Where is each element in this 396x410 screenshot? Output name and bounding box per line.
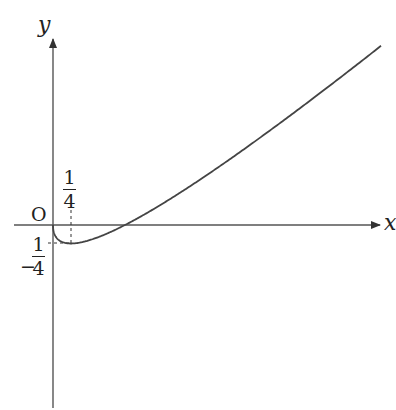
y-axis-label: y — [38, 12, 50, 37]
y-tick-denominator: 4 — [32, 258, 44, 279]
x-axis-label: x — [384, 210, 396, 235]
origin-label: O — [31, 203, 47, 225]
y-tick-neg-quarter: 1 4 — [32, 234, 45, 279]
y-tick-numerator: 1 — [32, 234, 44, 255]
function-curve — [53, 46, 381, 244]
x-tick-quarter: 1 4 — [63, 167, 76, 212]
x-tick-denominator: 4 — [63, 191, 75, 212]
x-tick-numerator: 1 — [63, 167, 75, 188]
